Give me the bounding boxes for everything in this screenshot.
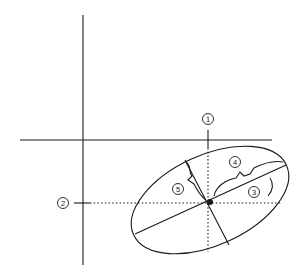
label-1: 1 (203, 114, 214, 125)
svg-text:1: 1 (206, 115, 210, 124)
angle-arc-3 (268, 178, 272, 196)
label-3: 3 (249, 187, 260, 198)
svg-text:2: 2 (61, 199, 65, 208)
label-2: 2 (58, 198, 69, 209)
svg-text:3: 3 (252, 188, 256, 197)
label-5: 5 (173, 184, 184, 195)
label-4: 4 (230, 157, 241, 168)
svg-text:4: 4 (233, 158, 237, 167)
center-point (207, 199, 213, 205)
ellipse-diagram: 1 2 3 4 5 (0, 0, 303, 276)
svg-text:5: 5 (176, 185, 180, 194)
minor-axis (185, 160, 229, 245)
